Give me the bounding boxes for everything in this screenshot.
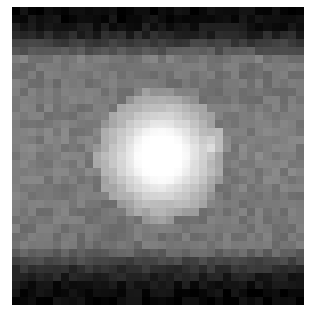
pixel-grid <box>12 7 304 305</box>
astronomical-image <box>12 7 304 305</box>
